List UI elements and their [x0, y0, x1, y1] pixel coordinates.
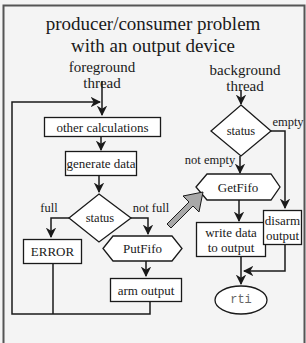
fg-status-label: status [69, 212, 131, 225]
getfifo-label: GetFifo [196, 181, 280, 194]
background-heading-line1: background [195, 63, 295, 78]
rti-label: rti [215, 294, 267, 306]
empty-label: empty [268, 116, 306, 129]
foreground-heading-line1: foreground [52, 60, 152, 75]
foreground-heading-line2: thread [52, 76, 152, 91]
producer-consumer-flowchart: producer/consumer problem with an output… [0, 0, 306, 343]
disarm-label-line1: disarm [263, 214, 302, 227]
generate-data-label: generate data [65, 157, 137, 170]
arm-output-label: arm output [110, 284, 182, 297]
bg-status-label: status [211, 125, 271, 138]
putfifo-label: PutFifo [103, 242, 182, 255]
full-label: full [34, 202, 64, 215]
write-data-label-line2: to output [196, 241, 266, 254]
background-heading-line2: thread [195, 79, 295, 94]
title-line2: with an output device [0, 36, 306, 55]
not-empty-label: not empty [180, 154, 240, 167]
write-data-label-line1: write data [196, 226, 266, 239]
other-calculations-label: other calculations [44, 121, 161, 134]
title-line1: producer/consumer problem [0, 14, 306, 33]
error-label: ERROR [23, 245, 82, 258]
not-full-label: not full [126, 202, 176, 215]
disarm-label-line2: output [263, 229, 302, 242]
